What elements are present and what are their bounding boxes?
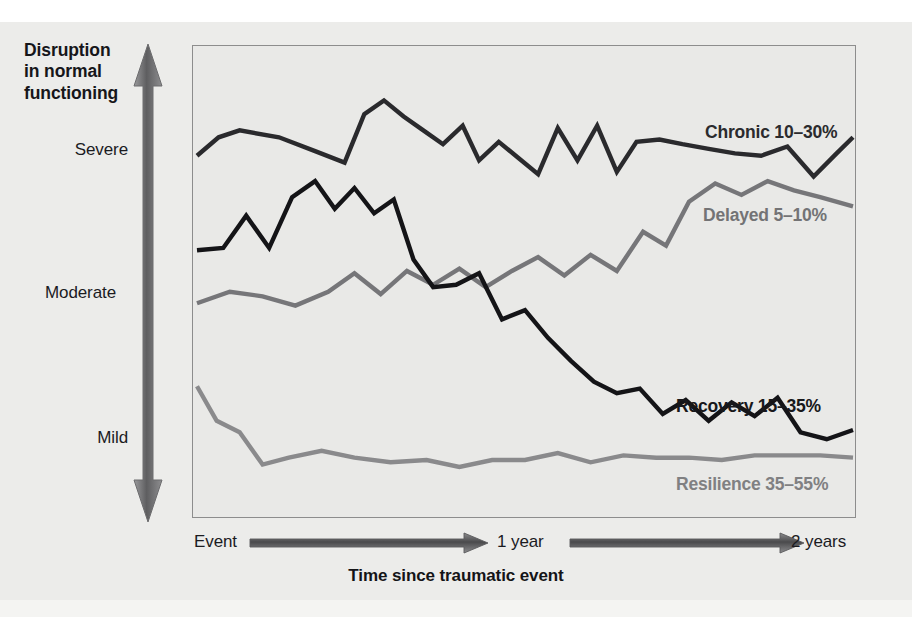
x-arrow-second-year <box>570 533 804 553</box>
y-tick-moderate: Moderate <box>6 283 116 303</box>
x-tick-1-year: 1 year <box>497 532 544 552</box>
series-label-delayed: Delayed 5–10% <box>703 205 827 226</box>
series-label-resilience: Resilience 35–55% <box>676 474 828 495</box>
x-tick-2-years: 2 years <box>791 532 846 552</box>
x-arrow-first-year <box>250 533 488 553</box>
series-label-recovery: Recovery 15–35% <box>676 396 821 417</box>
plot-area <box>192 45 856 518</box>
trajectory-lines <box>193 46 857 519</box>
double-headed-vertical-arrow-icon <box>131 42 165 524</box>
paper-bottom-margin <box>0 600 912 617</box>
series-label-chronic: Chronic 10–30% <box>705 122 837 143</box>
y-tick-severe: Severe <box>18 140 128 160</box>
x-tick-event: Event <box>194 532 237 552</box>
figure-page: Disruption in normal functioning Severe … <box>0 0 912 617</box>
series-line <box>197 181 853 305</box>
y-tick-mild: Mild <box>18 428 128 448</box>
x-axis-title: Time since traumatic event <box>0 566 912 586</box>
